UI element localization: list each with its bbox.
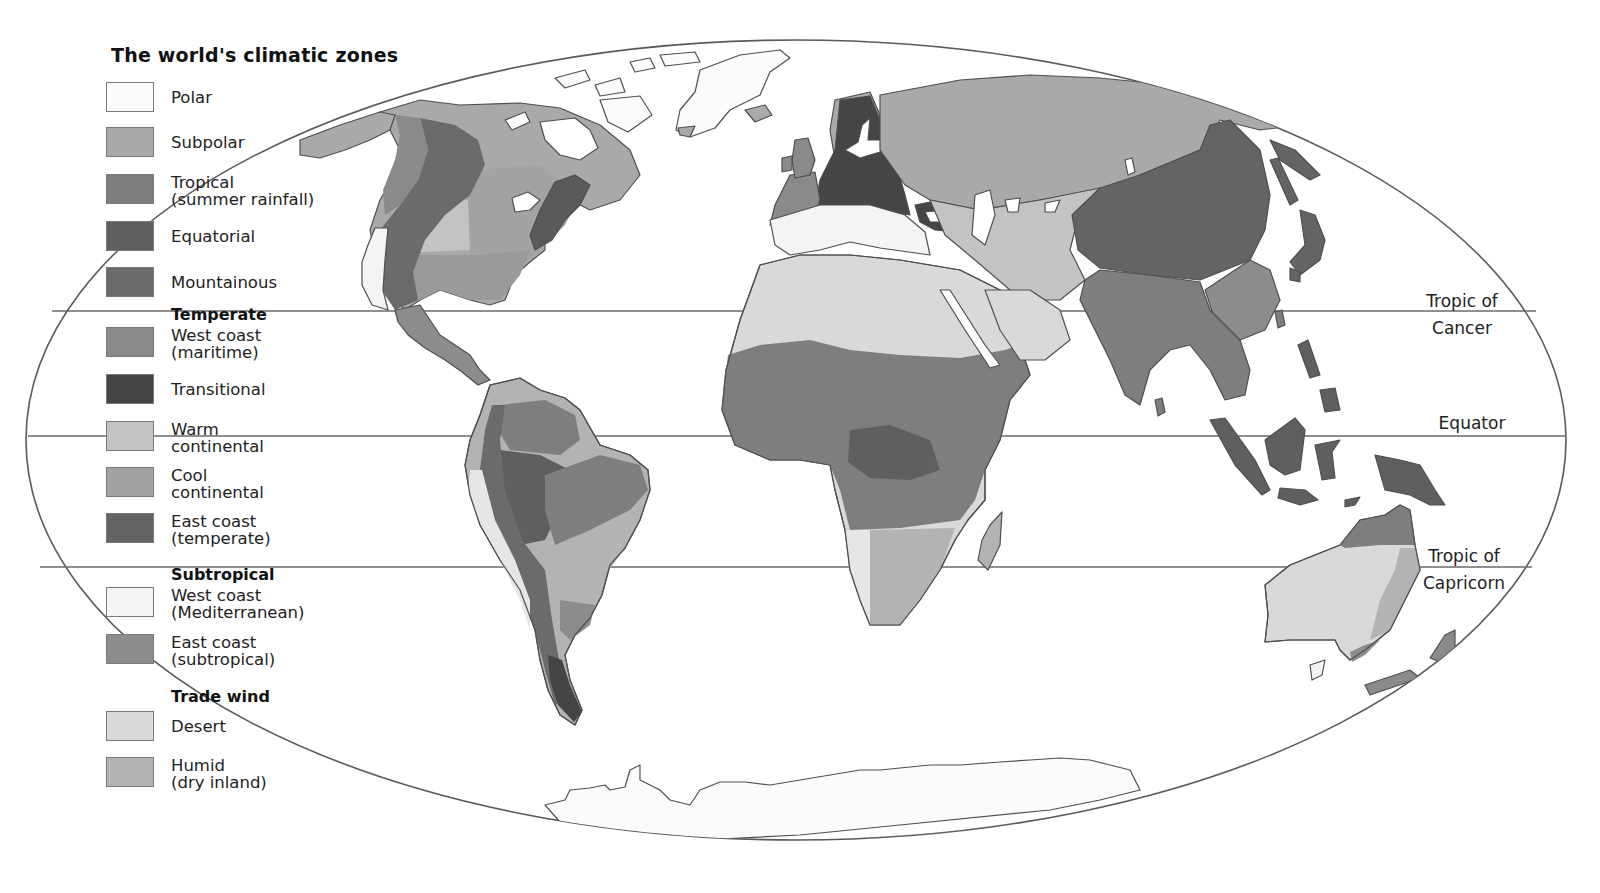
legend-label: Mountainous	[171, 274, 277, 291]
legend-label: Warm continental	[171, 421, 264, 455]
legend-label: Equatorial	[171, 228, 255, 245]
label-line1: West coast	[171, 587, 305, 604]
swatch-humid	[106, 757, 154, 787]
label-line2: (subtropical)	[171, 651, 275, 668]
label-line1: Tropic of	[1414, 543, 1514, 570]
label-line1: Tropical	[171, 174, 314, 191]
legend-label: West coast (maritime)	[171, 327, 261, 361]
swatch-transitional	[106, 374, 154, 404]
label-line1: West coast	[171, 327, 261, 344]
legend-label: Transitional	[171, 381, 266, 398]
legend-label: Humid (dry inland)	[171, 757, 267, 791]
swatch-equatorial	[106, 221, 154, 251]
label-line1: East coast	[171, 634, 275, 651]
swatch-cool-continental	[106, 467, 154, 497]
swatch-east-coast-subtropical	[106, 634, 154, 664]
label-line2: (maritime)	[171, 344, 261, 361]
swatch-west-coast-maritime	[106, 327, 154, 357]
label-line2: (Mediterranean)	[171, 604, 305, 621]
swatch-desert	[106, 711, 154, 741]
swatch-west-coast-mediterranean	[106, 587, 154, 617]
label-line1: Cool	[171, 467, 264, 484]
label-line2: continental	[171, 484, 264, 501]
swatch-tropical	[106, 174, 154, 204]
label-line2: (temperate)	[171, 530, 271, 547]
label-line2: Cancer	[1412, 315, 1512, 342]
label-line1: East coast	[171, 513, 271, 530]
swatch-mountainous	[106, 267, 154, 297]
swatch-east-coast-temperate	[106, 513, 154, 543]
label-line1: Tropic of	[1412, 288, 1512, 315]
label-line2: Capricorn	[1414, 570, 1514, 597]
swatch-warm-continental	[106, 421, 154, 451]
label-line2: (dry inland)	[171, 774, 267, 791]
legend-label: West coast (Mediterranean)	[171, 587, 305, 621]
legend-label: Tropical (summer rainfall)	[171, 174, 314, 208]
label-tropic-of-capricorn: Tropic of Capricorn	[1414, 543, 1514, 597]
swatch-polar	[106, 82, 154, 112]
legend-label: Polar	[171, 89, 212, 106]
ireland	[782, 156, 792, 172]
label-line2: continental	[171, 438, 264, 455]
label-equator: Equator	[1422, 410, 1522, 437]
label-line1: Equator	[1422, 410, 1522, 437]
legend-label: East coast (subtropical)	[171, 634, 275, 668]
label-tropic-of-cancer: Tropic of Cancer	[1412, 288, 1512, 342]
legend-label: Cool continental	[171, 467, 264, 501]
legend-label: Subpolar	[171, 134, 244, 151]
label-line1: Humid	[171, 757, 267, 774]
swatch-subpolar	[106, 127, 154, 157]
legend-label: Desert	[171, 718, 226, 735]
label-line1: Warm	[171, 421, 264, 438]
legend-label: East coast (temperate)	[171, 513, 271, 547]
label-line2: (summer rainfall)	[171, 191, 314, 208]
aral-sea	[1005, 198, 1020, 212]
